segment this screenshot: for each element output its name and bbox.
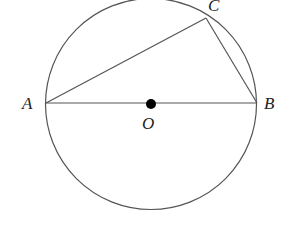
label-b: B: [264, 94, 275, 113]
chord-bc: [206, 18, 257, 103]
label-a: A: [21, 94, 33, 113]
label-c: C: [208, 0, 220, 15]
label-o: O: [142, 114, 154, 133]
geometry-diagram: A B C O: [0, 0, 292, 242]
center-point-o: [146, 99, 156, 109]
chord-ac: [46, 18, 206, 103]
